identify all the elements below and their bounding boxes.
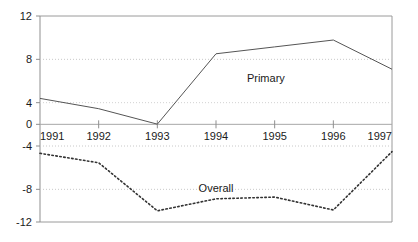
y-tick-label-4: 4 xyxy=(26,97,32,109)
y-tick-label-minus12: -12 xyxy=(16,216,32,228)
x-axis-tick-labels: 1991 1992 1993 1994 1995 1996 1997 xyxy=(40,130,392,142)
x-tick-label-1995: 1995 xyxy=(262,130,286,142)
x-tick-label-1991: 1991 xyxy=(40,130,64,142)
series-label-overall: Overall xyxy=(199,182,234,194)
y-tick-label-minus8: -8 xyxy=(22,183,32,195)
x-tick-label-1993: 1993 xyxy=(145,130,169,142)
chart-container: 12 8 4 0 -4 -8 -12 1991 1992 1993 1994 1… xyxy=(0,0,418,242)
chart-background xyxy=(0,0,418,242)
y-tick-label-8: 8 xyxy=(26,53,32,65)
x-tick-label-1997: 1997 xyxy=(368,130,392,142)
x-tick-label-1992: 1992 xyxy=(86,130,110,142)
x-tick-label-1996: 1996 xyxy=(321,130,345,142)
line-chart: 12 8 4 0 -4 -8 -12 1991 1992 1993 1994 1… xyxy=(0,0,418,242)
y-tick-label-12: 12 xyxy=(20,10,32,22)
series-label-primary: Primary xyxy=(247,72,285,84)
y-tick-label-minus4: -4 xyxy=(22,140,32,152)
y-tick-label-0: 0 xyxy=(26,118,32,130)
x-tick-label-1994: 1994 xyxy=(204,130,228,142)
